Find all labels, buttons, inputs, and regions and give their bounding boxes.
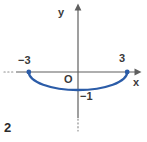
tick-label-3: 3 <box>119 53 125 64</box>
x-axis-arrowhead-icon <box>135 69 142 76</box>
figure-number: 2 <box>4 121 11 134</box>
tick-label-minus-1: −1 <box>80 91 93 102</box>
tick-label-minus-3: −3 <box>18 55 31 66</box>
coordinate-plane-figure: y x O −3 3 −1 2 <box>0 0 147 142</box>
x-axis-label: x <box>133 77 139 88</box>
y-axis-arrowhead-icon <box>75 4 82 11</box>
plot-canvas <box>0 0 147 142</box>
endpoint-dot-left <box>26 70 31 75</box>
origin-label: O <box>64 74 73 85</box>
endpoint-dot-right <box>125 70 130 75</box>
y-axis-label: y <box>58 7 64 18</box>
